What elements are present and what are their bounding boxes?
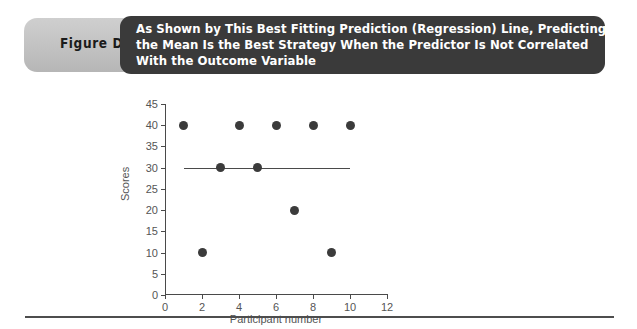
x-tick <box>313 295 314 299</box>
y-axis-label: Scores <box>119 167 131 201</box>
figure-title-line-3: With the Outcome Variable <box>136 53 596 69</box>
y-tick <box>161 274 165 275</box>
x-axis-label: Participant number <box>165 313 387 325</box>
x-tick-label: 0 <box>162 301 168 313</box>
y-tick-label: 15 <box>146 225 158 237</box>
figure-title-line-2: the Mean Is the Best Strategy When the P… <box>136 37 596 53</box>
y-tick-label: 20 <box>146 204 158 216</box>
x-tick <box>239 295 240 299</box>
plot-frame: 051015202530354045 024681012 <box>165 104 387 295</box>
y-tick <box>161 189 165 190</box>
x-tick-label: 8 <box>310 301 316 313</box>
figure-title-line-1: As Shown by This Best Fitting Prediction… <box>136 21 596 37</box>
y-tick <box>161 125 165 126</box>
x-tick-label: 4 <box>236 301 242 313</box>
x-tick <box>202 295 203 299</box>
y-tick-label: 40 <box>146 119 158 131</box>
y-tick <box>161 210 165 211</box>
y-tick <box>161 104 165 105</box>
data-point <box>216 163 225 172</box>
regression-line <box>184 168 351 170</box>
x-tick <box>387 295 388 299</box>
y-tick-label: 45 <box>146 98 158 110</box>
x-tick-label: 2 <box>199 301 205 313</box>
data-point <box>290 206 299 215</box>
y-tick-label: 5 <box>152 268 158 280</box>
y-tick <box>161 231 165 232</box>
y-tick-label: 35 <box>146 140 158 152</box>
data-point <box>272 121 281 130</box>
y-tick-label: 10 <box>146 247 158 259</box>
x-tick-label: 10 <box>344 301 356 313</box>
y-tick <box>161 146 165 147</box>
y-tick <box>161 253 165 254</box>
footer-divider <box>25 316 614 318</box>
data-point <box>327 248 336 257</box>
data-point <box>198 248 207 257</box>
x-tick <box>276 295 277 299</box>
data-point <box>235 121 244 130</box>
x-tick <box>165 295 166 299</box>
y-tick-label: 0 <box>152 289 158 301</box>
x-tick-label: 12 <box>381 301 393 313</box>
data-point <box>309 121 318 130</box>
scatter-plot: Scores Participant number 05101520253035… <box>0 86 637 301</box>
data-point <box>253 163 262 172</box>
data-point <box>346 121 355 130</box>
figure-header: Figure D-5 As Shown by This Best Fitting… <box>24 16 605 74</box>
figure-title-banner: As Shown by This Best Fitting Prediction… <box>120 16 605 74</box>
x-tick <box>350 295 351 299</box>
y-tick-label: 30 <box>146 162 158 174</box>
x-tick-label: 6 <box>273 301 279 313</box>
y-tick-label: 25 <box>146 183 158 195</box>
data-point <box>179 121 188 130</box>
y-tick <box>161 168 165 169</box>
figure-title: As Shown by This Best Fitting Prediction… <box>136 21 596 70</box>
y-axis-line <box>165 104 166 296</box>
